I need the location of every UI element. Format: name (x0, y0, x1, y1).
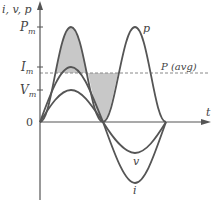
diagram-canvas: i, v, p t 0 Pm Im Vm p v i P (avg) (0, 0, 214, 201)
tick-label-pm: Pm (19, 20, 36, 36)
power-curve-label: p (143, 22, 150, 35)
x-axis-arrow-icon (201, 119, 211, 125)
x-axis-label: t (206, 106, 211, 119)
y-axis-label: i, v, p (2, 3, 31, 16)
power-waveform-diagram: i, v, p t 0 Pm Im Vm p v i P (avg) (0, 0, 214, 201)
y-axis-arrow-icon (37, 1, 43, 10)
origin-label: 0 (26, 116, 33, 129)
tick-label-vm: Vm (20, 83, 37, 99)
current-curve-label: i (133, 184, 137, 197)
voltage-curve-label: v (133, 155, 140, 168)
tick-label-im: Im (20, 60, 34, 76)
average-power-label: P (avg) (160, 61, 197, 72)
